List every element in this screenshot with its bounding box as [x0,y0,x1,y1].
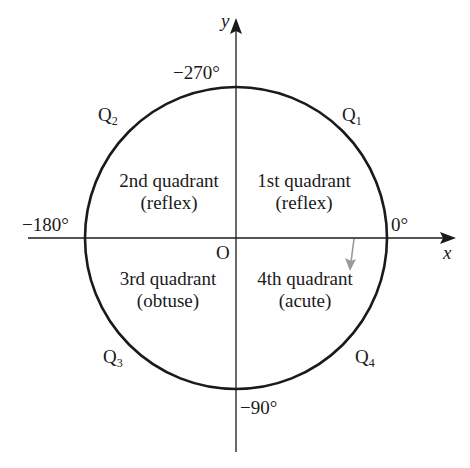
quadrant-name: 1st quadrant [238,170,370,192]
point-label-q1: Q1 [342,104,362,126]
quadrant-name: 4th quadrant [238,268,372,290]
angle-label-top: −270° [173,62,220,84]
quadrant-type: (reflex) [104,192,234,214]
point-subscript: 4 [369,356,375,370]
point-label-q2: Q2 [98,104,118,126]
point-letter: Q [98,104,112,125]
quadrant-name: 2nd quadrant [104,170,234,192]
x-axis-label: x [443,242,451,264]
angle-label-left: −180° [22,214,69,236]
quadrant-label-third: 3rd quadrant (obtuse) [102,268,234,312]
y-axis-label: y [221,10,229,32]
origin-label: O [216,242,230,264]
point-subscript: 3 [117,356,123,370]
unit-circle-diagram: y x O −270° −180° 0° −90° Q1 Q2 Q3 Q4 2n… [0,0,470,468]
rotation-arrow [351,239,354,262]
angle-label-right: 0° [391,214,408,236]
point-label-q3: Q3 [103,346,123,368]
quadrant-label-second: 2nd quadrant (reflex) [104,170,234,214]
quadrant-label-first: 1st quadrant (reflex) [238,170,370,214]
quadrant-name: 3rd quadrant [102,268,234,290]
quadrant-label-fourth: 4th quadrant (acute) [238,268,372,312]
point-subscript: 2 [112,114,118,128]
quadrant-type: (acute) [238,290,372,312]
point-letter: Q [355,346,369,367]
point-letter: Q [103,346,117,367]
point-letter: Q [342,104,356,125]
quadrant-type: (obtuse) [102,290,234,312]
quadrant-type: (reflex) [238,192,370,214]
point-subscript: 1 [356,114,362,128]
point-label-q4: Q4 [355,346,375,368]
angle-label-bottom: −90° [240,397,277,419]
